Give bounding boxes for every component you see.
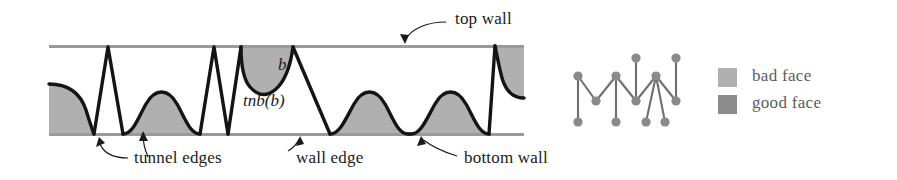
graph-node <box>591 96 600 105</box>
label-b: b <box>278 55 287 75</box>
graph-node <box>611 71 620 80</box>
graph-node <box>611 117 620 126</box>
legend-label-bad-face: bad face <box>752 66 812 86</box>
leader-top-wall <box>405 22 446 40</box>
tunnel-wall-figure: top wall tunnel edges wall edge bottom w… <box>0 0 897 180</box>
label-wall-edge: wall edge <box>296 148 363 168</box>
graph-node <box>651 71 660 80</box>
graph-node <box>671 96 680 105</box>
tunnel-edge-spike-3 <box>228 47 241 134</box>
graph-node <box>631 96 640 105</box>
annotation-leaders <box>99 22 457 158</box>
legend-label-good-face: good face <box>752 93 821 113</box>
label-tunnel-edges: tunnel edges <box>134 148 222 168</box>
tunnel-edge-spike-1 <box>94 47 123 134</box>
graph-edges <box>578 58 676 122</box>
legend-swatch-bad-face <box>718 68 737 87</box>
graph-edge <box>616 76 636 101</box>
tunnel-edge-spike-2 <box>200 47 228 134</box>
tunnel-edge-spike-5 <box>489 46 495 134</box>
graph-node <box>631 53 640 62</box>
graph-node <box>573 71 582 80</box>
tunnel-edge-spike-4 <box>293 47 330 134</box>
label-bottom-wall: bottom wall <box>464 148 548 168</box>
graph-edge <box>578 76 596 101</box>
legend-swatch-good-face <box>718 95 737 114</box>
graph-edge <box>596 76 616 101</box>
label-top-wall: top wall <box>455 9 512 29</box>
graph-node <box>660 117 669 126</box>
graph-node <box>573 117 582 126</box>
leader-bottom-wall <box>422 139 457 156</box>
graph-node <box>671 53 680 62</box>
arrowhead-top-wall <box>400 34 409 44</box>
label-tnb: tnb(b) <box>243 91 285 111</box>
graph-node <box>641 117 650 126</box>
arrowhead-wall-edge <box>296 136 304 146</box>
